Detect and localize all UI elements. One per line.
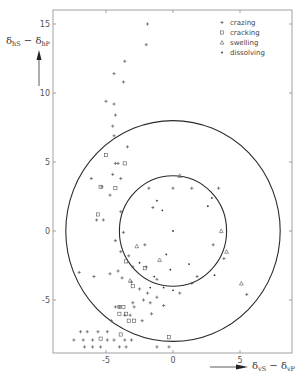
crazing-point — [114, 239, 117, 242]
dissolving-point — [207, 205, 209, 207]
crazing-point — [133, 305, 136, 308]
axis-ticks: 151050-5-505 — [40, 10, 292, 365]
crazing-point — [245, 293, 248, 296]
dissolving-point — [172, 230, 174, 232]
crazing-point — [102, 218, 105, 221]
crazing-legend-icon — [220, 21, 223, 24]
swelling-point — [225, 250, 229, 254]
crazing-point — [126, 145, 129, 148]
crazing-point — [171, 187, 174, 190]
crazing-point — [150, 312, 153, 315]
crazing-point — [119, 177, 122, 180]
crazing-point — [111, 173, 114, 176]
legend-label-dissolving: dissolving — [230, 49, 265, 57]
x-tick-label: -5 — [102, 356, 110, 365]
data-points — [72, 22, 248, 348]
crazing-point — [111, 125, 114, 128]
crazing-point — [212, 243, 215, 246]
crazing-point — [196, 275, 199, 278]
crazing-point — [149, 301, 152, 304]
crazing-point — [119, 250, 122, 253]
crazing-point — [112, 134, 115, 137]
crazing-point — [96, 330, 99, 333]
y-tick-label: 15 — [40, 20, 50, 29]
y-tick-label: -5 — [42, 296, 50, 305]
swelling-point — [239, 281, 243, 285]
crazing-point — [90, 177, 93, 180]
crazing-point — [142, 298, 145, 301]
x-tick-label: 5 — [237, 356, 242, 365]
crazing-point — [82, 338, 85, 341]
x-tick-label: 0 — [170, 356, 175, 365]
crazing-point — [95, 218, 98, 221]
crazing-point — [147, 187, 150, 190]
crazing-point — [127, 254, 130, 257]
legend-label-crazing: crazing — [230, 19, 256, 27]
crazing-point — [86, 330, 89, 333]
crazing-point — [155, 296, 158, 299]
crazing-point — [108, 272, 111, 275]
crazing-point — [167, 345, 170, 348]
legend-label-cracking: cracking — [230, 29, 260, 37]
cracking-point — [114, 187, 117, 190]
svg-text:δvS − δvP: δvS − δvP — [252, 360, 296, 373]
crazing-point — [106, 338, 109, 341]
crazing-point — [116, 269, 119, 272]
cracking-legend-icon — [220, 31, 223, 34]
y-tick-label: 5 — [45, 158, 50, 167]
y-axis-arrow-icon — [37, 50, 42, 86]
chart-canvas: 151050-5-505 δhS − δhP δvS − δvP crazing… — [0, 0, 304, 380]
dissolving-point — [211, 197, 213, 199]
dissolving-legend-icon — [221, 52, 223, 54]
cracking-point — [96, 213, 99, 216]
cracking-point — [123, 162, 126, 165]
crazing-point — [146, 292, 149, 295]
dissolving-point — [169, 269, 171, 271]
y-tick-label: 10 — [40, 89, 50, 98]
crazing-point — [114, 305, 117, 308]
crazing-point — [123, 60, 126, 63]
swelling-legend-icon — [220, 41, 224, 45]
swelling-point — [158, 258, 162, 262]
swelling-point — [135, 244, 139, 248]
dissolving-point — [153, 276, 155, 278]
crazing-point — [106, 330, 109, 333]
crazing-point — [143, 243, 146, 246]
crazing-point — [222, 257, 225, 260]
crazing-point — [217, 187, 220, 190]
crazing-point — [162, 304, 165, 307]
crazing-point — [125, 345, 128, 348]
legend: crazingcrackingswellingdissolving — [220, 19, 265, 57]
dissolving-point — [172, 289, 174, 291]
crazing-point — [145, 43, 148, 46]
cracking-point — [131, 285, 134, 288]
crazing-point — [141, 319, 144, 322]
crazing-point — [91, 345, 94, 348]
dissolving-point — [214, 274, 216, 276]
crazing-point — [112, 102, 115, 105]
crazing-point — [122, 231, 125, 234]
dissolving-point — [188, 263, 190, 265]
x-axis-label: δvS − δvP — [252, 360, 296, 373]
cracking-point — [119, 333, 122, 336]
crazing-point — [108, 194, 111, 197]
dissolving-point — [139, 262, 141, 264]
crazing-point — [78, 271, 81, 274]
y-tick-label: 0 — [45, 227, 50, 236]
crazing-point — [131, 301, 134, 304]
crazing-point — [178, 292, 181, 295]
crazing-point — [190, 187, 193, 190]
dissolving-point — [165, 254, 167, 256]
crazing-point — [138, 287, 141, 290]
crazing-point — [151, 206, 154, 209]
cracking-point — [118, 312, 121, 315]
legend-label-swelling: swelling — [230, 39, 258, 47]
dissolving-point — [163, 287, 165, 289]
cracking-point — [104, 154, 107, 157]
crazing-point — [99, 345, 102, 348]
x-axis-arrow-icon — [210, 365, 248, 370]
crazing-point — [72, 338, 75, 341]
y-axis-label: δhS − δhP — [6, 35, 51, 48]
crazing-point — [79, 330, 82, 333]
crazing-point — [83, 345, 86, 348]
